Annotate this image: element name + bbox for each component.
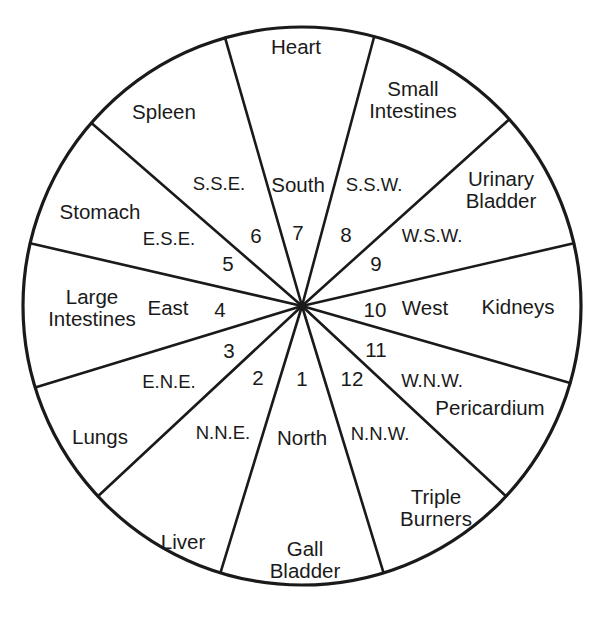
organ-compass-wheel-diagram: HeartSmall IntestinesUrinary BladderKidn… — [0, 0, 591, 627]
wheel-svg — [0, 0, 591, 627]
wheel-center-hub — [299, 303, 306, 310]
